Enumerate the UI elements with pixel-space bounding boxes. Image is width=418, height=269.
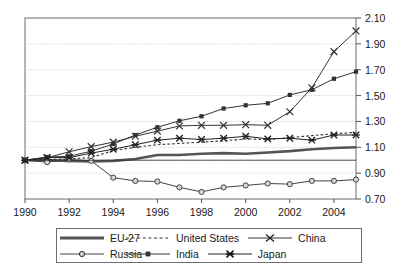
data-point-square xyxy=(155,125,159,129)
legend-label-india: India xyxy=(173,247,199,261)
y-tick-label: 1.30 xyxy=(365,115,386,127)
x-tick-label: 1996 xyxy=(146,206,170,218)
legend-swatch-united-states xyxy=(123,231,173,245)
y-tick-label: 1.10 xyxy=(365,141,386,153)
data-point-circle xyxy=(353,177,358,182)
data-point-square xyxy=(177,119,181,123)
data-point-x xyxy=(331,48,338,55)
x-tick-label: 1990 xyxy=(13,206,37,218)
data-point-asterisk xyxy=(109,146,117,152)
y-tick-label: 1.50 xyxy=(365,90,386,102)
data-point-circle xyxy=(243,183,248,188)
data-point-circle xyxy=(331,178,336,183)
legend-swatch-russia xyxy=(57,247,107,261)
data-point-asterisk xyxy=(264,136,272,142)
data-point-circle xyxy=(265,181,270,186)
chart-legend: EU-27 United States China xyxy=(56,228,362,263)
data-point-square xyxy=(222,106,226,110)
data-point-x xyxy=(66,148,73,155)
y-tick-label: 1.70 xyxy=(365,64,386,76)
data-point-square xyxy=(354,70,358,74)
data-point-square xyxy=(244,103,248,107)
legend-item-eu-27: EU-27 xyxy=(57,231,119,245)
legend-item-united-states: United States xyxy=(123,231,239,245)
x-tick-label: 2004 xyxy=(322,206,346,218)
data-point-asterisk xyxy=(154,137,162,143)
legend-swatch-japan xyxy=(205,247,255,261)
data-point-circle xyxy=(199,189,204,194)
legend-item-japan: Japan xyxy=(205,247,287,261)
x-tick-label: 1994 xyxy=(102,206,126,218)
series-line-russia xyxy=(25,160,356,192)
legend-item-india: India xyxy=(123,247,199,261)
legend-label-united-states: United States xyxy=(173,231,239,245)
legend-item-china: China xyxy=(245,231,325,245)
y-tick-label: 0.90 xyxy=(365,167,386,179)
data-point-square xyxy=(111,142,115,146)
data-point-square xyxy=(310,88,314,92)
data-point-x xyxy=(286,108,293,115)
y-tick-label: 0.70 xyxy=(365,193,386,205)
y-tick-label: 1.90 xyxy=(365,38,386,50)
data-point-circle xyxy=(155,179,160,184)
data-point-square xyxy=(288,93,292,97)
data-point-asterisk xyxy=(176,135,184,141)
data-point-square xyxy=(266,101,270,105)
legend-row: Russia India Japan xyxy=(57,246,361,262)
data-point-circle xyxy=(89,158,94,163)
plot-border xyxy=(25,18,356,199)
data-point-circle xyxy=(309,178,314,183)
x-tick-label: 1992 xyxy=(57,206,81,218)
legend-swatch-eu-27 xyxy=(57,231,107,245)
x-tick-label: 1998 xyxy=(190,206,214,218)
data-point-asterisk xyxy=(308,137,316,143)
data-point-square xyxy=(199,114,203,118)
data-point-asterisk xyxy=(220,135,228,141)
y-tick-label: 2.10 xyxy=(365,12,386,24)
data-point-asterisk xyxy=(330,132,338,138)
legend-item-russia: Russia xyxy=(57,247,119,261)
legend-swatch-china xyxy=(245,231,295,245)
legend-label-china: China xyxy=(295,231,325,245)
legend-row: EU-27 United States China xyxy=(57,230,361,246)
data-point-circle xyxy=(111,175,116,180)
data-point-circle xyxy=(177,185,182,190)
x-tick-label: 2000 xyxy=(234,206,258,218)
data-point-circle xyxy=(133,178,138,183)
line-chart: 2.101.901.701.501.301.100.900.7019901992… xyxy=(0,0,418,269)
legend-swatch-india xyxy=(123,247,173,261)
series-line-eu-27 xyxy=(25,147,356,161)
data-point-square xyxy=(332,77,336,81)
data-point-square xyxy=(133,133,137,137)
x-tick-label: 2002 xyxy=(278,206,302,218)
data-point-asterisk xyxy=(286,135,294,141)
legend-label-japan: Japan xyxy=(255,247,287,261)
data-point-circle xyxy=(221,185,226,190)
data-point-circle xyxy=(287,182,292,187)
